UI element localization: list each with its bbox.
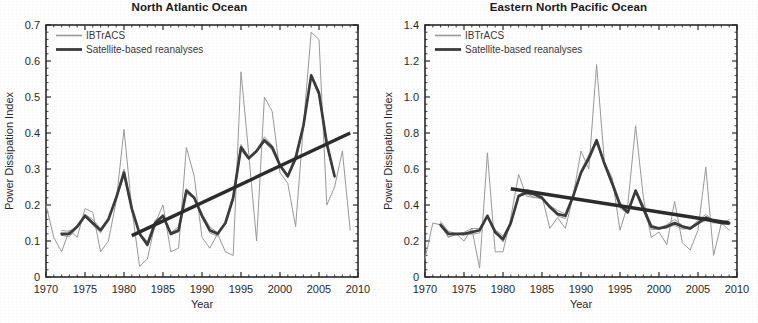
y-axis-tick-label: 0.4 (25, 127, 40, 139)
y-axis-tick-label: 0.6 (404, 163, 419, 175)
figure-two-panel-power-dissipation: North Atlantic Ocean 1970197519801985199… (0, 0, 758, 323)
series-line-satellite-reanalyses (441, 140, 730, 239)
x-axis-tick-label: 1985 (151, 283, 175, 295)
panel-north-atlantic: North Atlantic Ocean 1970197519801985199… (0, 0, 379, 323)
y-axis-tick-label: 1.2 (404, 55, 419, 67)
y-axis-tick-label: 0.8 (404, 127, 419, 139)
y-axis-tick-label: 0 (34, 271, 40, 283)
x-axis-tick-label: 1980 (112, 283, 136, 295)
x-axis-tick-label: 1980 (491, 283, 515, 295)
y-axis-title: Power Dissipation Index (382, 92, 394, 211)
x-axis-title: Year (191, 298, 214, 310)
series-line-ibtracs (46, 32, 350, 266)
legend-label: IBTrACS (465, 30, 504, 41)
y-axis-tick-label: 0.3 (25, 163, 40, 175)
x-axis-tick-label: 1990 (569, 283, 593, 295)
x-axis-title: Year (570, 298, 593, 310)
x-axis-tick-label: 2005 (686, 283, 710, 295)
y-axis-tick-label: 0.5 (25, 91, 40, 103)
legend-label: Satellite-based reanalyses (86, 44, 203, 55)
y-axis-tick-label: 0.6 (25, 55, 40, 67)
plot-eastern-north-pacific: 19701975198019851990199520002005201000.2… (379, 0, 758, 323)
x-axis-tick-label: 2000 (268, 283, 292, 295)
y-axis-tick-label: 0.4 (404, 199, 419, 211)
x-axis-tick-label: 1970 (413, 283, 437, 295)
y-axis-tick-label: 0.1 (25, 235, 40, 247)
series-line-ibtracs (425, 65, 729, 268)
legend-label: IBTrACS (86, 30, 125, 41)
x-axis-tick-label: 1975 (73, 283, 97, 295)
y-axis-tick-label: 1.0 (404, 91, 419, 103)
trend-line (511, 189, 729, 223)
x-axis-tick-label: 1975 (452, 283, 476, 295)
y-axis-tick-label: 0 (413, 271, 419, 283)
x-axis-tick-label: 1985 (530, 283, 554, 295)
y-axis-tick-label: 0.2 (25, 199, 40, 211)
plot-north-atlantic: 19701975198019851990199520002005201000.1… (0, 0, 379, 323)
y-axis-title: Power Dissipation Index (3, 92, 15, 211)
panel-eastern-north-pacific: Eastern North Pacific Ocean 197019751980… (379, 0, 758, 323)
y-axis-tick-label: 0.7 (25, 19, 40, 31)
x-axis-tick-label: 1995 (608, 283, 632, 295)
x-axis-tick-label: 1970 (34, 283, 58, 295)
y-axis-tick-label: 0.2 (404, 235, 419, 247)
legend-label: Satellite-based reanalyses (465, 44, 582, 55)
x-axis-tick-label: 2010 (346, 283, 370, 295)
y-axis-tick-label: 1.4 (404, 19, 419, 31)
x-axis-tick-label: 2005 (307, 283, 331, 295)
x-axis-tick-label: 2010 (725, 283, 749, 295)
x-axis-tick-label: 2000 (647, 283, 671, 295)
x-axis-tick-label: 1990 (190, 283, 214, 295)
x-axis-tick-label: 1995 (229, 283, 253, 295)
